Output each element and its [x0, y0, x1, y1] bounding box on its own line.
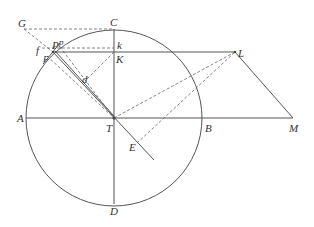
label-E: E	[128, 141, 136, 153]
label-C: C	[110, 16, 118, 28]
label-d: d	[82, 73, 88, 85]
label-P: P	[51, 39, 59, 51]
point-P	[52, 51, 54, 53]
line-PTE	[53, 52, 154, 160]
label-k: k	[117, 39, 123, 51]
label-F: F	[42, 54, 49, 64]
label-L: L	[237, 47, 244, 59]
label-B: B	[205, 122, 212, 134]
point-L	[234, 51, 236, 53]
diagram-canvas: G C k K P p f F d L A T B M E D	[0, 0, 314, 227]
label-M: M	[288, 122, 299, 134]
label-D: D	[109, 205, 118, 217]
label-f: f	[36, 44, 41, 56]
line-LM	[235, 52, 293, 118]
point-T	[112, 116, 115, 119]
label-K: K	[115, 53, 124, 65]
dashed-Kd	[86, 52, 114, 80]
label-A: A	[16, 112, 24, 124]
label-G: G	[18, 17, 26, 29]
dashed-FT	[47, 56, 114, 118]
geometric-diagram: G C k K P p f F d L A T B M E D	[0, 0, 314, 227]
label-p: p	[58, 37, 64, 47]
label-T: T	[106, 122, 113, 134]
